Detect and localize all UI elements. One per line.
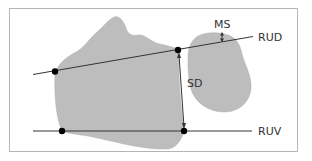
rud-label: RUD	[258, 31, 282, 44]
rud-right-point	[175, 47, 181, 53]
ruv-left-point	[59, 128, 65, 134]
ms-label: MS	[214, 18, 230, 31]
ruv-label: RUV	[258, 125, 282, 138]
rud-left-point	[52, 68, 58, 74]
small-bone-shape	[188, 33, 251, 112]
large-bone-shape	[55, 17, 184, 149]
diagram-canvas: MS RUD SD RUV	[0, 0, 312, 161]
ruv-right-point	[181, 128, 187, 134]
sd-label: SD	[187, 77, 202, 90]
